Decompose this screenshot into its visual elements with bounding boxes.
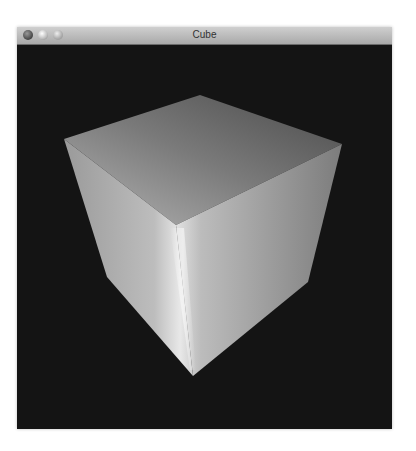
window-title: Cube	[17, 29, 392, 40]
title-bar[interactable]: Cube	[17, 27, 392, 45]
cube-render	[17, 45, 392, 429]
gl-viewport[interactable]	[17, 45, 392, 429]
app-window: Cube	[17, 27, 392, 429]
